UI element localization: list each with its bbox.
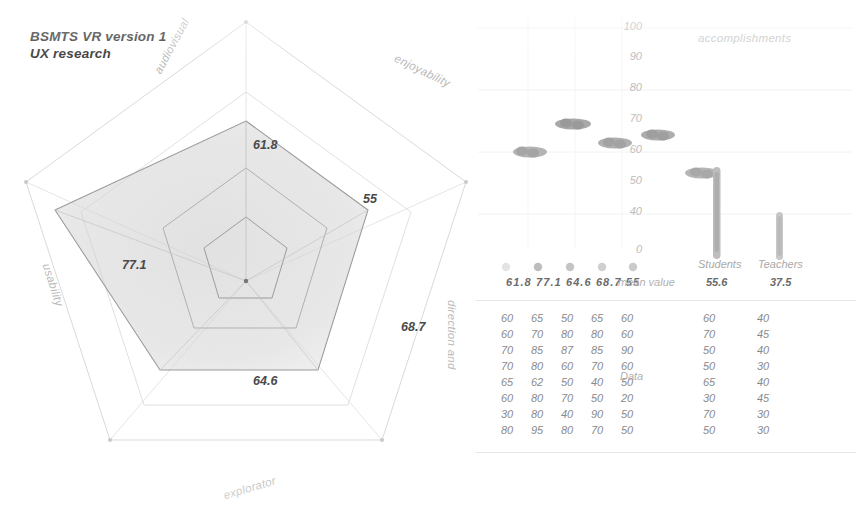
- radar-value-direction-and: 68.7: [401, 320, 425, 334]
- table-cell: 30: [736, 358, 790, 374]
- table-row: 5030: [682, 358, 790, 374]
- table-cell: 65: [682, 374, 736, 390]
- table-cell: 40: [736, 374, 790, 390]
- table-row: 6080705020: [492, 390, 642, 406]
- table-cell: 70: [522, 326, 552, 342]
- table-row: 7045: [682, 326, 790, 342]
- radar-data-area: [55, 121, 368, 370]
- ytick-50: 50: [614, 174, 642, 186]
- table-cell: 70: [492, 342, 522, 358]
- mean-value-students: 55.6: [706, 276, 727, 288]
- table-row: 6065506560: [492, 310, 642, 326]
- radar-value-explorator: 64.6: [253, 374, 277, 388]
- table-cell: 80: [522, 406, 552, 422]
- table-cell: 87: [552, 342, 582, 358]
- table-cell: 30: [492, 406, 522, 422]
- table-cell: 60: [492, 326, 522, 342]
- table-cell: 60: [492, 310, 522, 326]
- ytick-40: 40: [614, 205, 642, 217]
- table-cell: 90: [612, 342, 642, 358]
- page-canvas: BSMTS VR version 1 UX research: [0, 0, 860, 519]
- table-cell: 20: [612, 390, 642, 406]
- table-row: 7030: [682, 406, 790, 422]
- table-cell: 65: [522, 310, 552, 326]
- table-cell: 85: [582, 342, 612, 358]
- table-cell: 62: [522, 374, 552, 390]
- data-table-right: 60407045504050306540304570305030: [682, 310, 790, 438]
- table-row: 6040: [682, 310, 790, 326]
- dot-strip-teachers: [776, 212, 783, 260]
- table-cell: 65: [492, 374, 522, 390]
- table-cell: 60: [682, 310, 736, 326]
- table-cell: 80: [492, 422, 522, 438]
- table-cell: 70: [492, 358, 522, 374]
- accomplishments-label: accomplishments: [698, 32, 791, 44]
- table-cell: 60: [612, 310, 642, 326]
- radar-value-audiovisual: 61.8: [253, 138, 277, 152]
- ytick-80: 80: [614, 81, 642, 93]
- table-cell: 80: [522, 390, 552, 406]
- radar-value-enjoyability: 55: [363, 192, 377, 206]
- table-cell: 40: [552, 406, 582, 422]
- table-cell: 30: [736, 406, 790, 422]
- table-row: 6540: [682, 374, 790, 390]
- column-header-teachers: Teachers: [758, 258, 803, 270]
- ytick-70: 70: [614, 112, 642, 124]
- dot-plot-gridlines: [478, 28, 852, 214]
- table-cell: 70: [682, 326, 736, 342]
- dot-cluster-audiovisual: [513, 147, 547, 158]
- table-cell: 60: [492, 390, 522, 406]
- dot-plot-chart: [470, 0, 860, 300]
- legend-marker-dots: [502, 263, 637, 271]
- table-cell: 50: [582, 390, 612, 406]
- table-cell: 50: [612, 406, 642, 422]
- table-cell: 80: [552, 422, 582, 438]
- table-cell: 80: [582, 326, 612, 342]
- radar-value-usability: 77.1: [122, 258, 146, 272]
- table-cell: 70: [552, 390, 582, 406]
- mean-value-teachers: 37.5: [770, 276, 791, 288]
- ytick-100: 100: [614, 20, 642, 32]
- table-cell: 60: [552, 358, 582, 374]
- dot-cluster-explorator: [641, 130, 675, 141]
- table-row: 3080409050: [492, 406, 642, 422]
- ytick-0: 0: [614, 243, 642, 255]
- right-panel: 100 90 80 70 60 50 40 0 accomplishments …: [470, 0, 860, 519]
- table-cell: 30: [736, 422, 790, 438]
- page-title: BSMTS VR version 1 UX research: [30, 28, 166, 62]
- table-cell: 40: [582, 374, 612, 390]
- table-cell: 30: [682, 390, 736, 406]
- table-cell: 50: [682, 422, 736, 438]
- radar-center-dot: [244, 279, 248, 283]
- table-cell: 50: [682, 342, 736, 358]
- table-cell: 50: [552, 374, 582, 390]
- table-row: 7085878590: [492, 342, 642, 358]
- table-row: 5040: [682, 342, 790, 358]
- table-cell: 70: [682, 406, 736, 422]
- data-table: 6065506560607080806070858785907080607060…: [470, 300, 860, 470]
- ytick-90: 90: [614, 50, 642, 62]
- table-cell: 95: [522, 422, 552, 438]
- table-cell: 45: [736, 390, 790, 406]
- column-header-students: Students: [698, 258, 741, 270]
- table-cell: 40: [736, 310, 790, 326]
- table-cell: 45: [736, 326, 790, 342]
- table-cell: 85: [522, 342, 552, 358]
- table-cell: 40: [736, 342, 790, 358]
- title-line-2: UX research: [30, 45, 166, 62]
- dot-strip-students: [713, 167, 721, 259]
- table-cell: 70: [582, 358, 612, 374]
- table-row: 6070808060: [492, 326, 642, 342]
- table-cell: 50: [682, 358, 736, 374]
- table-row: 8095807050: [492, 422, 642, 438]
- table-cell: 70: [582, 422, 612, 438]
- data-table-label: Data: [620, 370, 643, 382]
- dot-plot-vert-gridlines: [528, 18, 622, 248]
- table-cell: 65: [582, 310, 612, 326]
- table-cell: 50: [612, 422, 642, 438]
- table-row: 5030: [682, 422, 790, 438]
- dot-cluster-enjoyability: [555, 119, 591, 130]
- table-cell: 50: [552, 310, 582, 326]
- table-cell: 80: [552, 326, 582, 342]
- table-cell: 90: [582, 406, 612, 422]
